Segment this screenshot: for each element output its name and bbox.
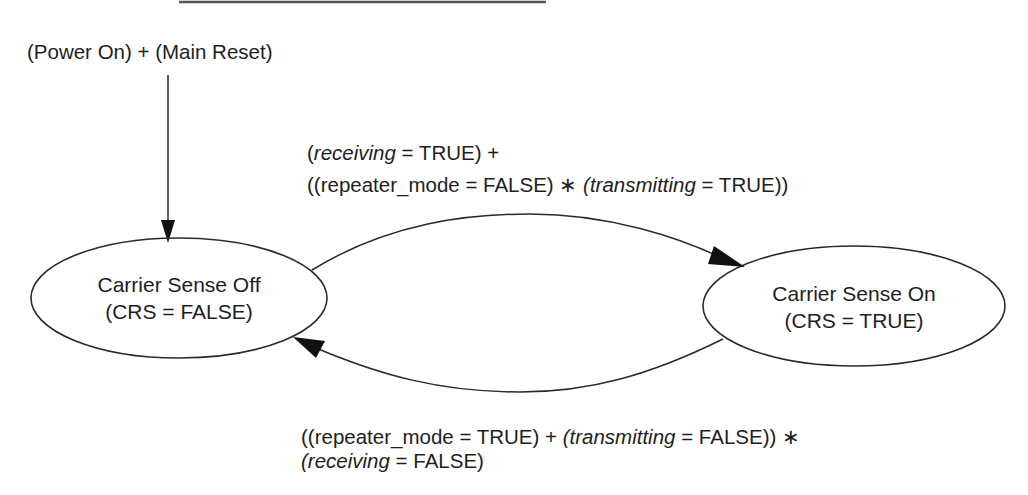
var-transmitting: (transmitting [583, 173, 696, 196]
state-diagram: (Power On) + (Main Reset) Carrier Sense … [0, 0, 1028, 495]
transition-off-to-on-condition-line2: ((repeater_mode = FALSE) ∗ (transmitting… [307, 175, 788, 196]
condition-text: ((repeater_mode = FALSE) ∗ [307, 173, 583, 196]
transition-off-to-on-arrow [312, 214, 745, 270]
transition-on-to-off-arrow [293, 337, 723, 392]
state-crs-off-title: Carrier Sense Off [31, 271, 327, 298]
condition-text: = FALSE)) ∗ [675, 425, 800, 448]
condition-text: = FALSE) [390, 449, 484, 472]
diagram-graphics [0, 0, 1028, 495]
condition-text: = TRUE)) [696, 173, 788, 196]
var-receiving: (receiving [301, 449, 390, 472]
state-crs-on: Carrier Sense On (CRS = TRUE) [703, 280, 1005, 334]
state-crs-on-subtitle: (CRS = TRUE) [703, 307, 1005, 334]
var-receiving: receiving [314, 141, 396, 164]
arrowhead-icon [293, 337, 325, 358]
transition-on-to-off-condition-line1: ((repeater_mode = TRUE) + (transmitting … [301, 427, 800, 448]
arrowhead-icon [708, 246, 745, 267]
transition-on-to-off-condition-line2: (receiving = FALSE) [301, 451, 484, 472]
state-crs-off-subtitle: (CRS = FALSE) [31, 298, 327, 325]
condition-text: ((repeater_mode = TRUE) + [301, 425, 563, 448]
init-arrow [161, 75, 175, 243]
arrowhead-icon [161, 220, 175, 243]
transition-off-to-on-condition-line1: (receiving = TRUE) + [307, 143, 499, 164]
init-condition-label: (Power On) + (Main Reset) [27, 42, 273, 63]
var-transmitting: (transmitting [563, 425, 676, 448]
condition-text: = TRUE) + [396, 141, 499, 164]
state-crs-on-title: Carrier Sense On [703, 280, 1005, 307]
state-crs-off: Carrier Sense Off (CRS = FALSE) [31, 271, 327, 325]
paren: ( [307, 141, 314, 164]
